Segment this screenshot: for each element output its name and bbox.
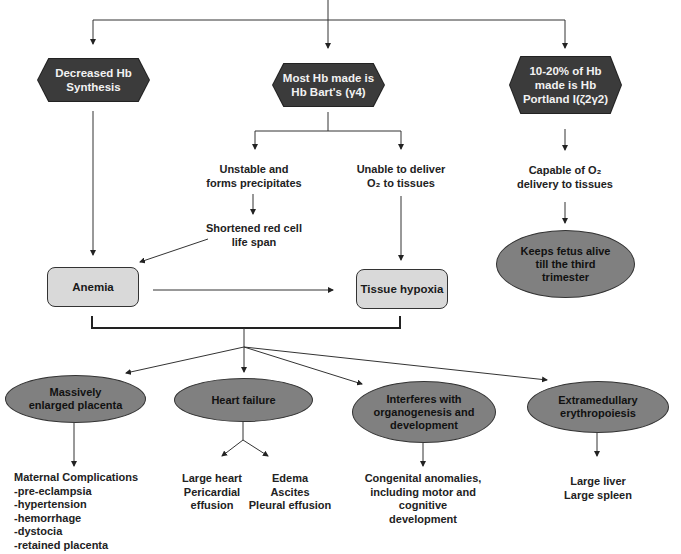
node-shortened-life-span: Shortened red cell life span (195, 222, 313, 249)
node-text: Anemia (72, 281, 114, 293)
node-text: Tissue hypoxia (361, 283, 444, 295)
node-text: Decreased Hb (55, 66, 132, 80)
list-heading: Maternal Complications (14, 471, 144, 485)
node-text: Pericardial (172, 486, 252, 500)
node-hb-portland: 10-20% of Hb made is Hb Portland I(ζ2γ2) (510, 57, 621, 113)
node-text: Capable of O₂ (505, 164, 625, 178)
node-capable-o2-delivery: Capable of O₂ delivery to tissues (505, 164, 625, 191)
node-text: including motor and (362, 486, 484, 500)
node-large-heart: Large heart Pericardial effusion (172, 472, 252, 513)
list-item: -hypertension (14, 498, 144, 512)
node-text: till the third (521, 258, 611, 271)
node-text: O₂ to tissues (345, 177, 457, 191)
node-text: trimester (521, 271, 611, 284)
node-large-liver-spleen: Large liver Large spleen (555, 475, 641, 502)
node-text: Shortened red cell (195, 222, 313, 236)
node-extramedullary-erythropoiesis: Extramedullary erythropoiesis (527, 381, 669, 433)
list-item: -dystocia (14, 525, 144, 539)
node-text: Hb Bart's (γ4) (283, 85, 374, 99)
node-text: effusion (172, 499, 252, 513)
node-text: Heart failure (211, 394, 275, 407)
node-text: Large heart (172, 472, 252, 486)
node-text: Pleural effusion (242, 499, 338, 513)
node-organogenesis: Interferes with organogenesis and develo… (352, 381, 496, 443)
list-item: -retained placenta (14, 539, 144, 553)
maternal-complications-list: Maternal Complications -pre-eclampsia -h… (14, 471, 144, 552)
node-text: enlarged placenta (29, 399, 123, 412)
node-text: cognitive (362, 499, 484, 513)
node-text: Edema (242, 472, 338, 486)
node-unable-deliver-o2: Unable to deliver O₂ to tissues (345, 163, 457, 190)
node-unstable-precipitates: Unstable and forms precipitates (195, 163, 313, 190)
node-text: Ascites (242, 486, 338, 500)
node-text: Unstable and (195, 163, 313, 177)
node-text: Portland I(ζ2γ2) (523, 92, 608, 106)
list-item: -hemorrhage (14, 512, 144, 526)
node-text: Synthesis (55, 80, 132, 94)
node-text: erythropoiesis (558, 407, 637, 420)
list-item: -pre-eclampsia (14, 485, 144, 499)
node-text: Keeps fetus alive (521, 245, 611, 258)
node-text: Massively (29, 386, 123, 399)
node-text: Most Hb made is (283, 71, 374, 85)
node-congenital-anomalies: Congenital anomalies, including motor an… (362, 472, 484, 526)
node-text: delivery to tissues (505, 178, 625, 192)
node-text: Congenital anomalies, (362, 472, 484, 486)
node-text: Large liver (555, 475, 641, 489)
node-anemia: Anemia (47, 267, 139, 307)
node-text: organogenesis and (374, 406, 475, 419)
node-text: Unable to deliver (345, 163, 457, 177)
node-heart-failure: Heart failure (174, 378, 313, 422)
node-text: Large spleen (555, 489, 641, 503)
node-text: made is Hb (523, 78, 608, 92)
node-edema: Edema Ascites Pleural effusion (242, 472, 338, 513)
node-decreased-hb-synthesis: Decreased Hb Synthesis (38, 59, 149, 101)
node-enlarged-placenta: Massively enlarged placenta (5, 375, 146, 423)
node-text: development (362, 513, 484, 527)
node-text: 10-20% of Hb (523, 64, 608, 78)
node-hb-barts: Most Hb made is Hb Bart's (γ4) (273, 64, 384, 106)
node-text: Extramedullary (558, 394, 637, 407)
node-text: development (374, 419, 475, 432)
node-text: life span (195, 236, 313, 250)
node-text: Interferes with (374, 393, 475, 406)
node-keeps-fetus-alive: Keeps fetus alive till the third trimest… (496, 230, 635, 298)
node-text: forms precipitates (195, 177, 313, 191)
flowchart-canvas: Decreased Hb Synthesis Most Hb made is H… (0, 0, 681, 554)
node-tissue-hypoxia: Tissue hypoxia (356, 269, 448, 309)
